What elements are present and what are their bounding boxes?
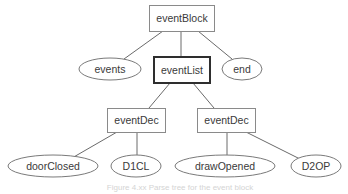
node-doorclosed: doorClosed <box>8 155 98 177</box>
edge-eventblock-events <box>124 31 163 59</box>
node-label: D1CL <box>123 160 150 172</box>
edge-eventdec-d2op <box>246 132 300 159</box>
node-d2op: D2OP <box>291 155 341 177</box>
figure-caption: Figure 4.xx Parse tree for the event blo… <box>107 183 254 192</box>
edge-eventlist-eventdec-left <box>149 83 170 108</box>
node-label: doorClosed <box>26 160 80 172</box>
edges <box>72 31 300 159</box>
node-label: events <box>95 63 126 75</box>
edge-eventlist-eventdec-right <box>193 83 214 108</box>
node-eventblock: eventBlock <box>150 6 215 32</box>
edge-eventblock-end <box>198 31 232 59</box>
node-label: eventDec <box>204 114 248 126</box>
node-eventdec-right: eventDec <box>198 109 256 133</box>
node-d1cl: D1CL <box>111 155 161 177</box>
node-end: end <box>222 58 262 80</box>
node-label: eventBlock <box>156 12 208 24</box>
node-label: eventDec <box>114 114 158 126</box>
node-drawopened: drawOpened <box>175 155 275 177</box>
node-events: events <box>79 58 141 80</box>
node-label: eventList <box>161 64 203 76</box>
node-label: D2OP <box>302 160 331 172</box>
edge-eventdec-doorclosed <box>72 132 117 158</box>
node-label: end <box>233 63 251 75</box>
node-eventdec-left: eventDec <box>108 109 166 133</box>
node-label: drawOpened <box>195 160 255 172</box>
parse-tree-diagram: eventBlock events eventList end eventDec… <box>0 0 348 194</box>
node-eventlist: eventList <box>154 57 210 83</box>
